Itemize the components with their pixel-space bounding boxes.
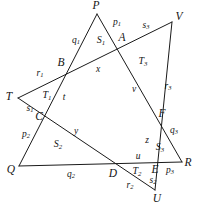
vertex-label-Q: Q bbox=[7, 164, 15, 176]
segment-label-s2: s2 bbox=[150, 176, 157, 186]
region-label-S2: S2 bbox=[54, 139, 62, 150]
vertex-label-U: U bbox=[153, 193, 161, 205]
vertex-label-P: P bbox=[92, 0, 99, 12]
segment-label-z: z bbox=[145, 136, 149, 146]
segment-label-u: u bbox=[136, 152, 141, 162]
segment-label-p1: p1 bbox=[113, 18, 121, 28]
vertex-label-V: V bbox=[175, 11, 182, 23]
region-label-S1: S1 bbox=[97, 35, 105, 46]
vertex-label-A: A bbox=[118, 32, 125, 44]
segment-label-q2: q2 bbox=[67, 170, 75, 180]
segment-label-r2: r2 bbox=[127, 181, 134, 191]
vertex-label-E: E bbox=[151, 164, 158, 176]
vertex-label-D: D bbox=[109, 168, 117, 180]
segment-label-p2: p2 bbox=[22, 130, 30, 140]
segment-label-x: x bbox=[96, 65, 100, 75]
segment-label-r1: r1 bbox=[37, 69, 44, 79]
region-label-T3: T3 bbox=[139, 56, 148, 67]
vertex-label-B: B bbox=[57, 57, 64, 69]
geometry-figure: PQRTUVABCDEFp1q1r1s1p2q2r2s2p3q3r3s3tuvx… bbox=[0, 0, 199, 213]
vertex-label-C: C bbox=[35, 111, 43, 123]
line-T-V bbox=[18, 22, 172, 98]
region-label-T1: T1 bbox=[43, 90, 52, 101]
region-label-S3: S3 bbox=[156, 142, 164, 153]
vertex-label-T: T bbox=[6, 91, 12, 103]
segment-label-r3: r3 bbox=[165, 82, 172, 92]
segment-label-t: t bbox=[63, 93, 66, 103]
vertex-label-R: R bbox=[184, 157, 191, 169]
segment-label-q1: q1 bbox=[72, 36, 80, 46]
region-label-T2: T2 bbox=[133, 166, 142, 177]
vertex-label-F: F bbox=[158, 108, 165, 120]
segment-label-q3: q3 bbox=[170, 126, 178, 136]
segment-label-v: v bbox=[132, 85, 136, 95]
segment-label-p3: p3 bbox=[166, 166, 174, 176]
segment-label-y: y bbox=[74, 127, 78, 137]
segment-label-s3: s3 bbox=[143, 21, 150, 31]
segment-label-s1: s1 bbox=[27, 104, 34, 114]
